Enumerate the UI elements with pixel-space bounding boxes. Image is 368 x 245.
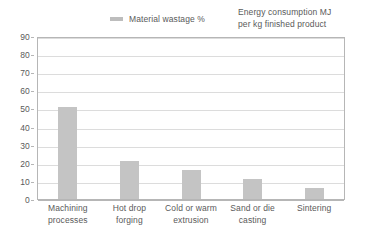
y-tick-mark-10 — [31, 182, 34, 183]
bar-chart: Material wastage % Energy consumption MJ… — [0, 0, 368, 245]
y-tick-label-20: 20 — [20, 159, 30, 169]
legend-swatch-material-wastage — [110, 17, 123, 21]
x-label-sintering: Sintering — [283, 203, 345, 215]
y-tick-mark-50 — [31, 109, 34, 110]
y-tick-mark-60 — [31, 91, 34, 92]
y-tick-label-0: 0 — [25, 195, 30, 205]
gridline-80 — [38, 56, 344, 57]
chart-legend: Material wastage % Energy consumption MJ… — [0, 6, 368, 36]
x-label-line: Sintering — [283, 203, 345, 215]
x-label-cold-or-warm-extrusion: Cold or warmextrusion — [160, 203, 222, 226]
y-tick-label-90: 90 — [20, 32, 30, 42]
y-tick-label-80: 80 — [20, 50, 30, 60]
y-tick-mark-80 — [31, 55, 34, 56]
x-label-line: processes — [37, 215, 99, 227]
x-label-line: casting — [222, 215, 284, 227]
x-label-line: Cold or warm — [160, 203, 222, 215]
gridline-70 — [38, 74, 344, 75]
bar-sintering[interactable] — [305, 188, 324, 199]
y-tick-label-40: 40 — [20, 123, 30, 133]
x-label-sand-or-die-casting: Sand or diecasting — [222, 203, 284, 226]
gridline-50 — [38, 110, 344, 111]
x-label-hot-drop-forging: Hot dropforging — [99, 203, 161, 226]
x-label-line: forging — [99, 215, 161, 227]
gridline-30 — [38, 147, 344, 148]
legend-label-energy-line-2: per kg finished product — [238, 19, 364, 31]
bar-hot-drop-forging[interactable] — [120, 161, 139, 199]
legend-label-energy-line-1: Energy consumption MJ — [238, 7, 364, 19]
y-tick-label-60: 60 — [20, 86, 30, 96]
y-tick-mark-90 — [31, 37, 34, 38]
y-tick-label-70: 70 — [20, 68, 30, 78]
y-tick-mark-0 — [31, 200, 34, 201]
y-tick-label-30: 30 — [20, 141, 30, 151]
y-tick-label-10: 10 — [20, 177, 30, 187]
legend-label-material-wastage: Material wastage % — [129, 14, 205, 24]
y-tick-mark-70 — [31, 73, 34, 74]
bar-cold-or-warm-extrusion[interactable] — [182, 170, 201, 199]
gridline-20 — [38, 165, 344, 166]
legend-entry-material-wastage: Material wastage % — [110, 14, 205, 24]
legend-entry-energy-consumption: Energy consumption MJ per kg finished pr… — [238, 7, 364, 30]
y-tick-mark-30 — [31, 146, 34, 147]
y-tick-mark-40 — [31, 128, 34, 129]
gridline-0 — [38, 200, 344, 201]
x-axis-labels: MachiningprocessesHot dropforgingCold or… — [37, 203, 345, 243]
x-label-line: Sand or die — [222, 203, 284, 215]
x-label-line: Hot drop — [99, 203, 161, 215]
y-axis: 0102030405060708090 — [0, 37, 34, 200]
x-label-line: Machining — [37, 203, 99, 215]
y-tick-mark-20 — [31, 164, 34, 165]
x-label-line: extrusion — [160, 215, 222, 227]
gridline-90 — [38, 38, 344, 39]
gridline-40 — [38, 129, 344, 130]
bar-sand-or-die-casting[interactable] — [243, 179, 262, 199]
y-tick-label-50: 50 — [20, 104, 30, 114]
gridline-60 — [38, 92, 344, 93]
bar-machining-processes[interactable] — [58, 107, 77, 199]
x-label-machining-processes: Machiningprocesses — [37, 203, 99, 226]
